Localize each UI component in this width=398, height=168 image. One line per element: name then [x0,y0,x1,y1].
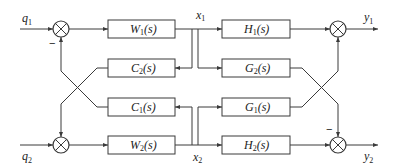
block-G2: G2(s) [222,59,290,77]
svg-text:C2(s): C2(s) [131,61,156,76]
block-G1: G1(s) [222,98,290,116]
svg-text:W2(s): W2(s) [130,138,157,153]
block-W2: W2(s) [108,136,175,154]
svg-text:C1(s): C1(s) [131,100,156,115]
input-q2: q2 [20,145,53,165]
svg-text:y1: y1 [363,10,373,26]
block-W1: W1(s) [108,20,175,38]
block-C1: C1(s) [108,98,175,116]
block-H2: H2(s) [222,136,290,154]
svg-text:H1(s): H1(s) [243,22,269,37]
svg-text:G1(s): G1(s) [245,100,270,115]
svg-text:y2: y2 [363,149,373,165]
minus-sign-input-1: − [49,37,55,49]
svg-text:H2(s): H2(s) [243,138,269,153]
svg-text:G2(s): G2(s) [245,61,270,76]
svg-text:q1: q1 [22,11,32,27]
output-y2: y2 [346,145,378,165]
block-diagram: q1 − W1(s) x1 H1(s) y1 C2(s) G2(s) [0,0,398,168]
signal-x1-label: x1 [195,8,205,23]
summing-junction-output-1 [330,21,346,37]
block-H1: H1(s) [222,20,290,38]
svg-text:W1(s): W1(s) [130,22,157,37]
svg-text:q2: q2 [22,149,32,165]
summing-junction-output-2 [330,137,346,153]
output-y1: y1 [346,10,378,29]
minus-sign-output-2: − [326,123,332,135]
input-q1: q1 [20,11,53,29]
block-C2: C2(s) [108,59,175,77]
summing-junction-input-1 [53,21,69,37]
summing-junction-input-2 [53,137,69,153]
signal-x2-label: x2 [192,150,202,165]
